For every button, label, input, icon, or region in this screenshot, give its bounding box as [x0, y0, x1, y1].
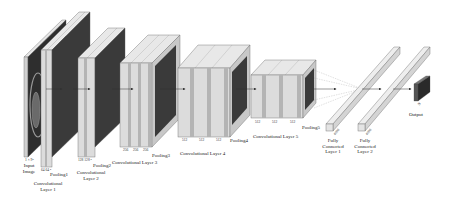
- conv3-dim-2: 256: [133, 148, 138, 152]
- cnn-architecture-diagram: [0, 0, 454, 201]
- pool4-label: Pooling4: [230, 138, 248, 144]
- conv4-dim-3: 512: [216, 138, 221, 142]
- input-dims: 1 × 9²: [25, 158, 34, 162]
- conv3-dim-3: 256: [143, 148, 148, 152]
- conv5-dim-3: 512: [290, 120, 295, 124]
- input-label: Input Image: [16, 163, 42, 174]
- fc1-label: Fully Connected Layer 1: [318, 138, 348, 155]
- conv1-label: Convolutional Layer 1: [30, 181, 66, 192]
- conv5-label: Convolutional Layer 5: [253, 134, 298, 140]
- conv4-dim-1: 512: [182, 138, 187, 142]
- conv5-dim-2: 512: [272, 120, 277, 124]
- fc2-label: Fully Connected Layer 2: [350, 138, 380, 155]
- pool5-label: Pooling5: [302, 125, 320, 131]
- conv3-label: Convolutional Layer 3: [112, 160, 157, 166]
- conv2-dims: 128 128 ²: [78, 158, 92, 162]
- output-node: [414, 76, 430, 101]
- pool1-label: Pooling1: [50, 172, 68, 178]
- pool3-label: Pooling3: [152, 153, 170, 159]
- conv3-dim-1: 256: [123, 148, 128, 152]
- pool2-label: Pooling2: [93, 163, 111, 169]
- conv4-label: Convolutional Layer 4: [180, 151, 225, 157]
- output-label: Output: [409, 112, 423, 118]
- conv2-label: Convolutional Layer 2: [73, 170, 109, 181]
- conv5-dim-1: 512: [255, 120, 260, 124]
- conv4-dim-2: 512: [199, 138, 204, 142]
